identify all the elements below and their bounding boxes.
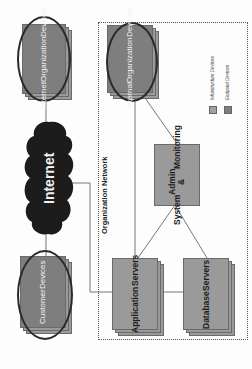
customer-devices-label: Customer Devices — [20, 256, 66, 328]
internal-org-devices-label: Internal Organization Devices — [107, 25, 153, 93]
network-diagram: Internet Organization Devices Internet C… — [0, 0, 252, 369]
organization-network-label: Organization Network — [99, 140, 111, 250]
legend-label-endpoint: Endpoint Devices — [225, 60, 230, 100]
legend-swatch-endpoint — [224, 106, 232, 114]
legend-swatch-infrastructure — [209, 106, 217, 114]
legend-label-infrastructure: Infrastructure Devices — [210, 44, 215, 100]
application-servers-label: Application Servers — [112, 258, 158, 330]
system-admin-label: System Admin & Monitoring — [154, 144, 200, 206]
internet-label: Internet — [22, 118, 76, 238]
internet-org-devices-label: Internet Organization Devices — [22, 24, 66, 94]
database-servers-label: Database Servers — [183, 258, 229, 330]
